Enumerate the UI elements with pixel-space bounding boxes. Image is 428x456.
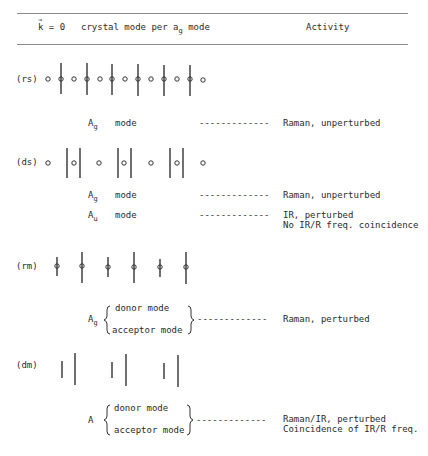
row-label-dm: (dm) [16,360,38,370]
ds-au-mode: mode [115,210,137,220]
ds-au-activity-2: No IR/R freq. coincidence [283,220,418,230]
ds-ag-dashes: ------------- [199,190,269,200]
dm-activity-1: Raman/IR, perturbed [283,414,386,424]
rm-dashes: ------------- [197,314,267,324]
ds-ag-symbol: Ag [88,190,98,200]
ds-au-activity-1: IR, perturbed [283,210,353,220]
dm-acceptor-mode: acceptor mode [114,425,184,435]
rs-ag-activity: Raman, unperturbed [283,118,381,128]
rm-acceptor-mode: acceptor mode [112,325,182,335]
rm-activity: Raman, perturbed [283,314,370,324]
rm-right-brace [188,306,194,334]
ds-au-symbol: Au [88,210,98,220]
row-label-rm: (rm) [16,261,38,271]
rm-left-brace [104,306,110,334]
rs-lattice [46,63,205,96]
dm-dashes: ------------- [196,415,266,425]
dm-left-brace [104,405,110,435]
ds-ag-activity: Raman, unperturbed [283,190,381,200]
rm-donor-mode: donor mode [115,303,169,313]
dm-a-symbol: A [88,415,93,425]
dm-donor-mode: donor mode [114,403,168,413]
rm-lattice [55,252,188,284]
ds-lattice [46,148,205,178]
rs-ag-symbol: Ag [88,118,98,128]
ds-au-dashes: ------------- [199,210,269,220]
rs-ag-dashes: ------------- [199,118,269,128]
rm-ag-symbol: Ag [88,314,98,324]
rs-ag-mode: mode [115,118,137,128]
dm-lattice [62,353,178,387]
ds-ag-mode: mode [115,190,137,200]
row-label-ds: (ds) [16,157,38,167]
row-label-rs: (rs) [16,74,38,84]
dm-activity-2: Coincidence of IR/R freq. [283,424,418,434]
dm-right-brace [187,405,193,435]
